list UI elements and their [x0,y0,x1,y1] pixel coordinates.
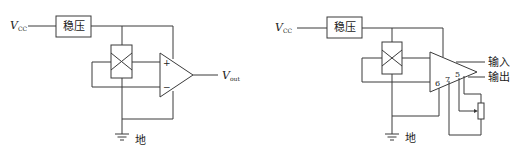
pin5-pot-top-wire [464,76,481,103]
output-label: 输出 [488,70,510,84]
wiper-arrow-icon [474,109,478,113]
vout-label: Vout [222,69,240,82]
pin-5-label: 5 [455,70,460,79]
vcc-label: VCC [275,21,293,34]
ground-label: 地 [135,134,146,147]
circuit-right: VCC 稳压 地 6 7 5 输入 输出 [275,17,510,145]
ground-icon [115,134,129,140]
vcc-label: VCC [10,19,28,32]
potentiometer [478,103,484,119]
minus-label: − [163,82,171,92]
plus-label: + [163,58,171,68]
regulator-label: 稳压 [63,19,85,33]
input-label: 输入 [488,55,510,69]
pin7-pot-bottom-wire [449,81,481,135]
ground-rail [122,91,173,119]
ground-label: 地 [405,132,416,145]
circuit-figure: VCC 稳压 地 + − Vout VCC 稳压 [0,0,518,160]
regulator-label: 稳压 [334,20,356,34]
ground-icon [385,134,399,140]
circuit-left: VCC 稳压 地 + − Vout [10,16,240,147]
pin-6-label: 6 [435,79,440,88]
